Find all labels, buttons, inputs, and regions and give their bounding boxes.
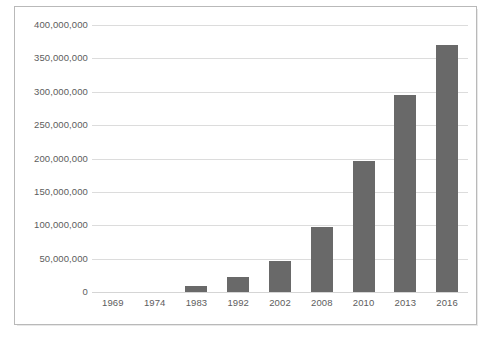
x-tick-label: 2010 [353,297,375,308]
bar-slot [426,25,468,292]
bar [436,45,458,292]
bar-series [92,25,468,292]
y-tick-label: 300,000,000 [0,87,88,97]
bar-slot [301,25,343,292]
x-axis: 196919741983199220022008201020132016 [92,297,468,317]
x-tick-label: 2002 [269,297,291,308]
bar [227,277,249,292]
y-tick-label: 50,000,000 [0,254,88,264]
x-tick-label: 1969 [102,297,124,308]
y-tick-label: 200,000,000 [0,154,88,164]
bar [311,227,333,292]
bar-slot [259,25,301,292]
y-axis: 050,000,000100,000,000150,000,000200,000… [0,0,88,339]
bar [353,161,375,292]
x-tick-label: 1983 [186,297,208,308]
bar-slot [176,25,218,292]
y-tick-label: 350,000,000 [0,53,88,63]
y-tick-label: 150,000,000 [0,187,88,197]
x-tick-label: 2013 [395,297,417,308]
axis-baseline [92,292,468,293]
x-tick-label: 1992 [227,297,249,308]
bar-slot [343,25,385,292]
y-tick-label: 100,000,000 [0,220,88,230]
y-tick-label: 0 [0,287,88,297]
bar-chart-figure: 050,000,000100,000,000150,000,000200,000… [0,0,492,339]
x-tick-label: 1974 [144,297,166,308]
bar-slot [92,25,134,292]
bar [269,261,291,292]
bar-slot [384,25,426,292]
y-tick-label: 400,000,000 [0,20,88,30]
y-tick-label: 250,000,000 [0,120,88,130]
bar-slot [217,25,259,292]
bar-slot [134,25,176,292]
x-tick-label: 2016 [436,297,458,308]
x-tick-label: 2008 [311,297,333,308]
bar [185,286,207,292]
bar [394,95,416,292]
